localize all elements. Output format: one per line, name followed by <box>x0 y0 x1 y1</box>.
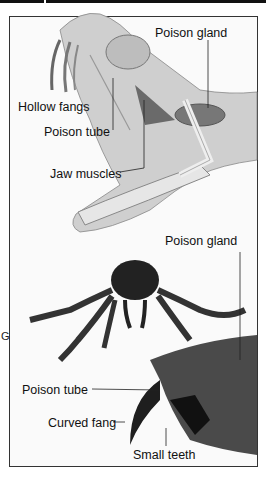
label-jaw-muscles: Jaw muscles <box>50 167 122 181</box>
label-small-teeth: Small teeth <box>133 448 196 462</box>
label-hollow-fangs: Hollow fangs <box>18 100 90 114</box>
label-spider-poison-gland: Poison gland <box>165 234 237 248</box>
label-curved-fang: Curved fang <box>48 416 116 430</box>
chelicera-closeup-illustration <box>130 335 257 455</box>
label-snake-poison-tube: Poison tube <box>44 125 110 139</box>
snake-head-illustration <box>52 13 257 232</box>
label-spider-poison-tube: Poison tube <box>22 383 88 397</box>
label-snake-poison-gland: Poison gland <box>155 26 227 40</box>
